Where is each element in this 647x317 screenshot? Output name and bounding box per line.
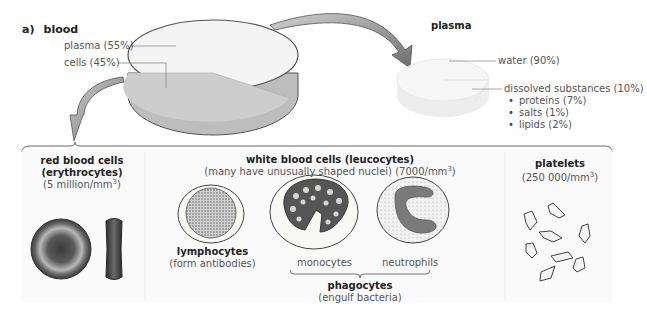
monocytes-label: monocytes bbox=[297, 257, 352, 269]
arrow-to-cells bbox=[70, 77, 124, 141]
dissolved-item-salts: salts (1%) bbox=[506, 107, 587, 119]
lymphocytes-caption: lymphocytes (form antibodies) bbox=[165, 246, 260, 270]
dissolved-item-proteins: proteins (7%) bbox=[506, 95, 587, 107]
red-blood-cell-face bbox=[31, 219, 91, 279]
blood-pie-chart bbox=[118, 20, 298, 135]
figure-title: a) blood bbox=[22, 18, 78, 37]
rbc-count: (5 million/mm3) bbox=[22, 179, 142, 191]
rbc-header: red blood cells (erythrocytes) (5 millio… bbox=[22, 155, 142, 191]
platelets-title: platelets bbox=[510, 158, 610, 170]
dissolved-item-lipids: lipids (2%) bbox=[506, 119, 587, 131]
lymphocytes-note: (form antibodies) bbox=[165, 258, 260, 270]
wbc-subtitle: (many have unusually shaped nuclei) (700… bbox=[200, 166, 460, 178]
lymphocytes-label: lymphocytes bbox=[165, 246, 260, 258]
rbc-title-line1: red blood cells bbox=[22, 155, 142, 167]
red-blood-cell-side bbox=[106, 219, 122, 280]
plasma-title: plasma bbox=[431, 20, 471, 31]
monocyte-cell bbox=[270, 175, 358, 249]
phagocytes-label: phagocytes bbox=[300, 280, 420, 292]
neutrophils-label: neutrophils bbox=[382, 257, 438, 269]
plasma-slice-label: plasma (55%) bbox=[64, 40, 134, 52]
platelets-header: platelets (250 000/mm3) bbox=[510, 158, 610, 184]
dissolved-list: proteins (7%) salts (1%) lipids (2%) bbox=[506, 95, 587, 131]
neutrophil-cell bbox=[377, 177, 449, 243]
platelets-count: (250 000/mm3) bbox=[510, 172, 610, 184]
plasma-pie-chart bbox=[397, 59, 502, 117]
cells-slice-label: cells (45%) bbox=[64, 57, 120, 69]
phagocytes-caption: phagocytes (engulf bacteria) bbox=[300, 280, 420, 304]
phagocytes-note: (engulf bacteria) bbox=[300, 292, 420, 304]
water-label: water (90%) bbox=[498, 55, 560, 67]
wbc-header: white blood cells (leucocytes) (many hav… bbox=[200, 154, 460, 178]
dissolved-label: dissolved substances (10%) bbox=[504, 83, 644, 95]
lymphocyte-cell bbox=[178, 185, 244, 243]
part-label: a) bbox=[22, 23, 34, 36]
blood-title: blood bbox=[44, 23, 79, 36]
wbc-title: white blood cells (leucocytes) bbox=[200, 154, 460, 166]
rbc-title-line2: (erythrocytes) bbox=[22, 167, 142, 179]
